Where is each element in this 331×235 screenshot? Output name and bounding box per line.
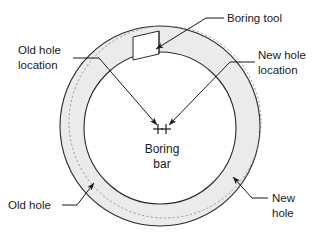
label-old-hole-location-line2: location [18, 59, 58, 71]
label-old-hole: Old hole [8, 199, 51, 211]
label-boring-bar-line1: Boring [145, 142, 180, 156]
bore-circle [84, 52, 236, 204]
label-old-hole-location-line1: Old hole [18, 44, 61, 56]
label-new-hole-location-line2: location [258, 64, 298, 76]
workpiece-group [60, 26, 261, 226]
boring-diagram: Boring tool Old hole location New hole l… [0, 0, 331, 235]
label-new-hole-line2: hole [272, 207, 294, 219]
diagram-canvas: Boring tool Old hole location New hole l… [0, 0, 331, 235]
label-boring-tool: Boring tool [227, 12, 282, 24]
label-new-hole-location-line1: New hole [258, 49, 306, 61]
label-boring-bar-line2: bar [153, 157, 170, 171]
label-new-hole-line1: New [272, 192, 296, 204]
